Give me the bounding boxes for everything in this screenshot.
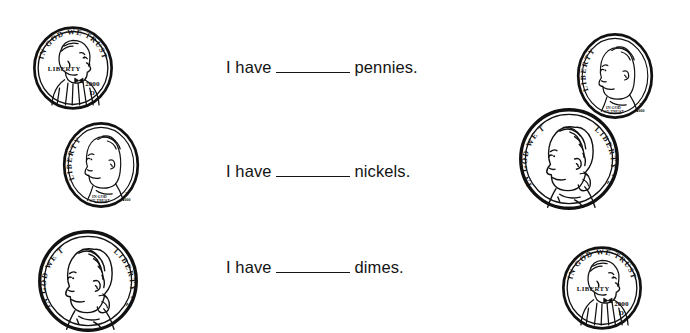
sentence-row-pennies: I havepennies.	[226, 57, 418, 77]
answer-blank-pennies[interactable]	[276, 59, 350, 73]
penny-liberty-text: LIBERTY	[577, 285, 610, 292]
sentence-row-nickels: I havenickels.	[226, 161, 410, 181]
dime-year-text: 2000	[123, 197, 131, 202]
penny-year-text: 2000	[85, 80, 100, 88]
nickel-coin-image: IN GOD WE TRUST LIBERTY · 2000	[36, 229, 140, 333]
sentence-row-dimes: I havedimes.	[226, 257, 404, 277]
sentence-noun-dimes: dimes.	[355, 257, 404, 277]
sentence-lead-nickels: I have	[226, 161, 272, 181]
penny-liberty-text: LIBERTY	[48, 65, 81, 72]
penny-year-text: 2000	[614, 300, 629, 308]
penny-mintmark-text: D	[90, 89, 95, 97]
sentence-noun-pennies: pennies.	[355, 57, 418, 77]
penny-mintmark-text: D	[619, 309, 624, 317]
sentence-lead-pennies: I have	[226, 57, 272, 77]
sentence-lead-dimes: I have	[226, 257, 272, 277]
sentence-noun-nickels: nickels.	[355, 161, 411, 181]
answer-blank-nickels[interactable]	[276, 163, 350, 177]
dime-year-text: 2000	[637, 108, 645, 113]
penny-coin-image: IN GOD WE TRUST	[560, 244, 644, 332]
answer-blank-dimes[interactable]	[276, 259, 350, 273]
nickel-coin-image: IN GOD WE TRUST LIBERTY · 2000	[517, 107, 621, 211]
dime-motto-line2: WE TRUST	[89, 198, 110, 203]
dime-coin-image: LIBERTY IN GOD	[61, 120, 141, 210]
penny-coin-image: IN GOD WE TRUST	[31, 24, 115, 112]
